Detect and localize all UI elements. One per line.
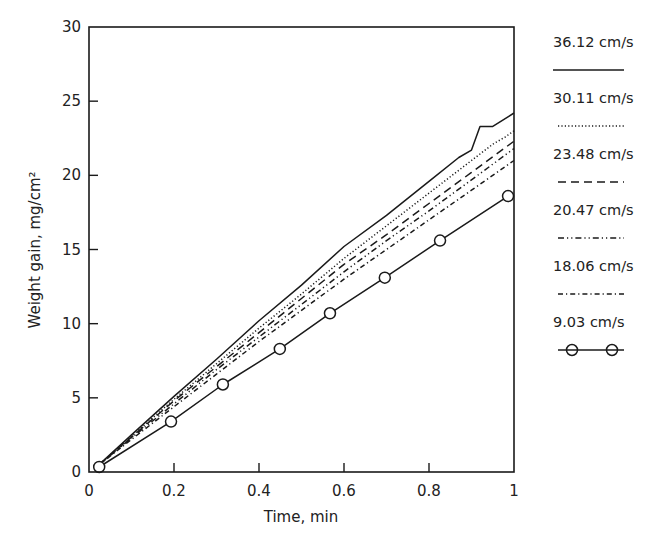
circle-marker — [503, 191, 514, 202]
legend-swatch-icon — [550, 174, 630, 190]
legend-label: 20.47 cm/s — [553, 202, 634, 218]
legend-label: 36.12 cm/s — [553, 34, 634, 50]
legend-label: 30.11 cm/s — [553, 90, 634, 106]
y-tick-label: 30 — [62, 18, 81, 36]
y-tick-label: 20 — [62, 166, 81, 184]
legend-item: 18.06 cm/s — [550, 258, 667, 314]
legend: 36.12 cm/s30.11 cm/s23.48 cm/s20.47 cm/s… — [550, 34, 667, 370]
legend-swatch-icon — [550, 230, 630, 246]
legend-label: 18.06 cm/s — [553, 258, 634, 274]
legend-swatch-icon — [550, 342, 630, 358]
legend-label: 23.48 cm/s — [553, 146, 634, 162]
x-tick-label: 0.6 — [332, 482, 356, 500]
y-axis-label: Weight gain, mg/cm² — [26, 171, 44, 328]
circle-marker — [94, 461, 105, 472]
circle-marker — [324, 308, 335, 319]
x-axis-ticks: 00.20.40.60.81 — [84, 463, 519, 500]
y-tick-label: 10 — [62, 315, 81, 333]
x-tick-label: 0.8 — [417, 482, 441, 500]
series-line — [98, 161, 515, 467]
legend-item: 36.12 cm/s — [550, 34, 667, 90]
legend-item: 30.11 cm/s — [550, 90, 667, 146]
circle-marker — [166, 416, 177, 427]
series-line — [98, 149, 515, 467]
x-axis-label: Time, min — [263, 508, 339, 526]
x-tick-label: 0.4 — [247, 482, 271, 500]
x-tick-label: 0 — [84, 482, 94, 500]
y-axis-ticks: 051015202530 — [62, 18, 98, 481]
y-tick-label: 5 — [71, 389, 81, 407]
plot-frame — [89, 27, 514, 472]
circle-marker — [274, 343, 285, 354]
circle-marker — [379, 272, 390, 283]
legend-item: 23.48 cm/s — [550, 146, 667, 202]
plot-lines — [94, 113, 514, 472]
y-tick-label: 0 — [71, 463, 81, 481]
legend-item: 9.03 cm/s — [550, 314, 667, 370]
legend-swatch-icon — [550, 62, 630, 78]
y-tick-label: 15 — [62, 241, 81, 259]
series-line — [98, 141, 515, 466]
y-tick-label: 25 — [62, 92, 81, 110]
series-line — [99, 196, 508, 467]
legend-swatch-icon — [550, 286, 630, 302]
circle-marker — [435, 235, 446, 246]
circle-marker — [217, 379, 228, 390]
legend-item: 20.47 cm/s — [550, 202, 667, 258]
legend-label: 9.03 cm/s — [553, 314, 624, 330]
x-tick-label: 1 — [509, 482, 519, 500]
legend-swatch-icon — [550, 118, 630, 134]
x-tick-label: 0.2 — [162, 482, 186, 500]
series-line — [98, 131, 515, 466]
